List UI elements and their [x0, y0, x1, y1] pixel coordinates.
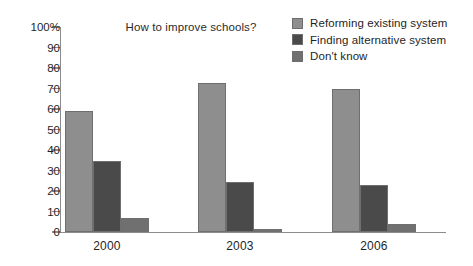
- bar-2003-series-2: [254, 229, 282, 232]
- bar-2003-series-1: [226, 182, 254, 232]
- bar-2006-series-0: [332, 89, 360, 233]
- x-axis-label-2000: 2000: [47, 239, 167, 253]
- bar-2006-series-2: [388, 224, 416, 232]
- bar-2000-series-1: [93, 161, 121, 232]
- bar-group-2000: [65, 27, 149, 232]
- bar-2003-series-0: [198, 83, 226, 232]
- bars-layer: [0, 0, 473, 232]
- bar-2000-series-2: [121, 218, 149, 232]
- x-axis-label-2006: 2006: [314, 239, 434, 253]
- chart-page: How to improve schools? Reforming existi…: [0, 0, 473, 266]
- x-axis-label-2003: 2003: [180, 239, 300, 253]
- bar-2006-series-1: [360, 185, 388, 232]
- bar-2000-series-0: [65, 111, 93, 232]
- bar-group-2003: [198, 27, 282, 232]
- bar-group-2006: [332, 27, 416, 232]
